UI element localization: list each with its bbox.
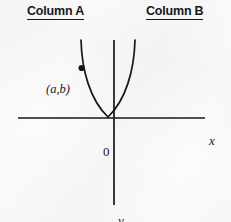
origin-label: 0 <box>103 144 110 160</box>
y-axis-label: y <box>118 213 124 222</box>
column-a-header: Column A <box>27 4 84 20</box>
column-b-header: Column B <box>146 4 203 20</box>
coordinate-plane-figure: (a,b) x y 0 <box>0 24 231 222</box>
parabola-curve <box>81 40 135 117</box>
figure-screenshot: Column A Column B (a,b) x y 0 <box>0 0 231 222</box>
point-ab-label: (a,b) <box>46 82 70 97</box>
point-ab-marker <box>79 65 85 71</box>
column-headers: Column A Column B <box>0 0 231 26</box>
x-axis-label: x <box>209 133 215 149</box>
graph-canvas <box>0 24 231 222</box>
